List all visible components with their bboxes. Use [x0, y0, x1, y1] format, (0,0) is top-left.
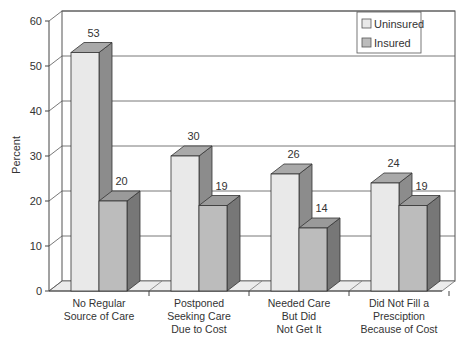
value-label: 53 — [87, 27, 99, 39]
legend-swatch — [362, 19, 371, 28]
value-label: 20 — [115, 175, 127, 187]
value-label: 14 — [315, 202, 327, 214]
x-axis-categories: No RegularSource of CarePostponedSeeking… — [64, 297, 438, 335]
y-tick-label: 30 — [30, 150, 42, 162]
legend: UninsuredInsured — [357, 12, 424, 53]
value-label: 30 — [187, 130, 199, 142]
value-label: 19 — [415, 180, 427, 192]
y-tick-label: 40 — [30, 105, 42, 117]
value-label: 24 — [387, 157, 399, 169]
value-label: 19 — [215, 180, 227, 192]
category-label: No RegularSource of Care — [64, 297, 135, 322]
y-tick-label: 10 — [30, 240, 42, 252]
legend-label: Insured — [374, 37, 411, 49]
value-label: 26 — [287, 148, 299, 160]
legend-label: Uninsured — [374, 18, 424, 30]
legend-swatch — [362, 38, 371, 47]
y-tick-label: 20 — [30, 195, 42, 207]
bar-chart: 0102030405060 5320301926142419 No Regula… — [0, 0, 466, 340]
category-label: PostponedSeeking CareDue to Cost — [167, 297, 231, 335]
y-tick-label: 0 — [36, 285, 42, 297]
y-tick-label: 50 — [30, 60, 42, 72]
category-label: Needed CareBut DidNot Get It — [268, 297, 331, 335]
category-label: Did Not Fill aPresciptionBecause of Cost — [360, 297, 437, 335]
y-tick-label: 60 — [30, 15, 42, 27]
y-axis-label: Percent — [10, 136, 22, 174]
